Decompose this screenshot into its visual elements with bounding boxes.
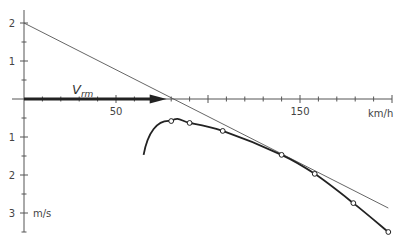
- tangent-line: [24, 23, 388, 208]
- y-tick-label: 2: [9, 18, 15, 29]
- y-unit-label: m/s: [33, 208, 51, 219]
- series: [24, 23, 388, 232]
- ticks: [20, 23, 392, 232]
- vrm-label: Vrm: [72, 82, 94, 99]
- data-point-marker: [187, 121, 192, 126]
- vrm-arrowhead-icon: [150, 95, 167, 104]
- y-tick-label: 2: [9, 170, 15, 181]
- measured-curve: [144, 119, 389, 232]
- axes: [12, 10, 392, 232]
- x-tick-label: 150: [290, 106, 309, 117]
- y-tick-label: 1: [9, 132, 15, 143]
- data-point-marker: [386, 230, 391, 235]
- vrm-arrow: [24, 95, 167, 104]
- data-point-marker: [279, 152, 284, 157]
- data-point-marker: [220, 129, 225, 134]
- data-point-marker: [169, 119, 174, 124]
- data-point-marker: [351, 201, 356, 206]
- y-tick-label: 3: [9, 208, 15, 219]
- chart: 5015021123 km/h m/s Vrm: [0, 0, 403, 242]
- x-unit-label: km/h: [368, 108, 393, 119]
- data-markers: [169, 119, 391, 235]
- x-tick-label: 50: [110, 106, 123, 117]
- vrm-sub: rm: [81, 89, 94, 99]
- data-point-marker: [312, 171, 317, 176]
- y-tick-label: 1: [9, 56, 15, 67]
- tick-labels: 5015021123: [9, 18, 310, 219]
